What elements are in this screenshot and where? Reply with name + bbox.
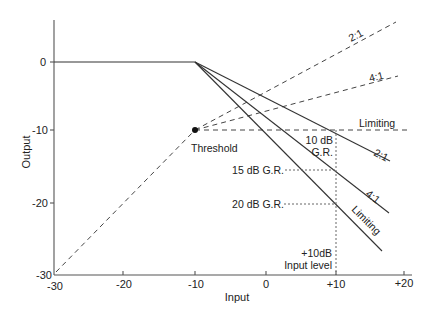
solid-4-1-label: 4:1 [364, 187, 383, 206]
threshold-point [192, 127, 198, 133]
dashed-limiting-label: Limiting [359, 117, 395, 129]
gr20-label: 20 dB G.R. [232, 198, 284, 210]
unity-gain-dashed-line [56, 130, 195, 272]
dashed-2-1-label: 2:1 [346, 26, 365, 44]
x-tick-plus10: +10 [327, 278, 346, 290]
y-axis-label: Output [20, 135, 32, 168]
y-axis [50, 20, 54, 275]
ratio-2-1-dashed-line [195, 22, 396, 130]
gr10-label-line1: 10 dB [306, 134, 333, 146]
threshold-label: Threshold [191, 142, 238, 154]
x-tick-minus10: -10 [188, 278, 204, 290]
compressor-transfer-diagram: 0 -10 -20 -30 -30 -20 -10 0 +10 +20 Inpu… [0, 0, 434, 312]
y-tick-0: 0 [40, 56, 46, 68]
x-axis [54, 271, 412, 275]
input-level-label-line1: +10dB [301, 247, 332, 259]
y-tick-minus20: -20 [32, 197, 48, 209]
solid-2-1-label: 2:1 [372, 146, 391, 163]
dashed-4-1-label: 4:1 [368, 69, 385, 84]
gr15-label: 15 dB G.R. [232, 164, 284, 176]
x-axis-label: Input [225, 291, 249, 303]
solid-limiting-label: Limiting [350, 203, 384, 237]
x-tick-minus30: -30 [47, 280, 63, 292]
gr10-label-line2: G.R. [311, 146, 333, 158]
x-tick-plus20: +20 [395, 277, 414, 289]
x-tick-minus20: -20 [116, 278, 132, 290]
y-tick-minus10: -10 [32, 124, 48, 136]
input-level-label-line2: Input level [284, 259, 332, 271]
ratio-4-1-solid-line [195, 62, 389, 213]
x-tick-0: 0 [263, 278, 269, 290]
limiting-solid-line [195, 62, 382, 251]
